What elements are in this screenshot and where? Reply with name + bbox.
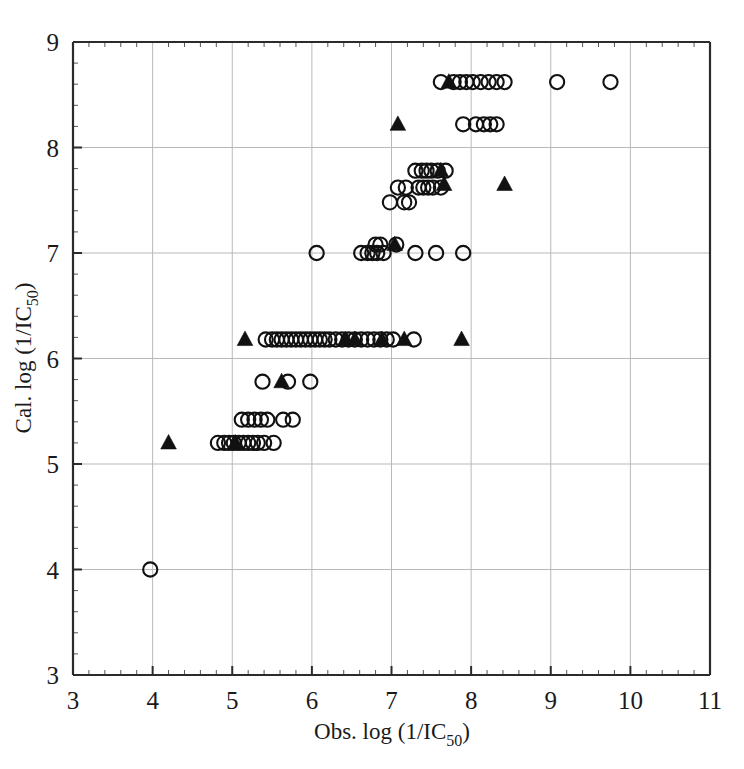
y-tick-label: 9	[47, 29, 60, 56]
x-tick-label: 5	[226, 687, 239, 714]
x-tick-label: 10	[618, 687, 643, 714]
x-tick-label: 8	[465, 687, 478, 714]
y-tick-label: 4	[47, 557, 60, 584]
x-tick-label: 4	[146, 687, 159, 714]
plot-canvas: 34567891011 3456789 Obs. log (1/IC50) Ca…	[0, 0, 744, 769]
figure-background	[0, 0, 744, 769]
y-tick-label: 5	[47, 451, 60, 478]
x-tick-label: 6	[306, 687, 319, 714]
x-tick-label: 3	[67, 687, 80, 714]
y-tick-label: 3	[47, 662, 60, 689]
x-tick-label: 11	[698, 687, 722, 714]
x-tick-label: 7	[385, 687, 398, 714]
y-tick-label: 7	[47, 240, 60, 267]
scatter-plot-figure: 34567891011 3456789 Obs. log (1/IC50) Ca…	[0, 0, 744, 769]
y-tick-label: 6	[47, 346, 60, 373]
x-tick-label: 9	[545, 687, 558, 714]
y-tick-label: 8	[47, 135, 60, 162]
